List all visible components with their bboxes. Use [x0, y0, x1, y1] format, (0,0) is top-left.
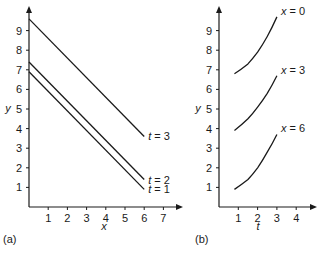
x-tick-label: 1 — [235, 212, 241, 224]
y-tick-label: 3 — [16, 142, 22, 154]
y-tick-label: 2 — [206, 162, 212, 174]
y-tick-label: 3 — [206, 142, 212, 154]
y-tick-label: 7 — [206, 64, 212, 76]
x-axis-arrow-icon — [176, 204, 183, 210]
series-line — [234, 134, 276, 189]
y-axis-label: y — [194, 102, 202, 114]
x-tick-label: 4 — [293, 212, 299, 224]
x-tick-label: 3 — [84, 212, 90, 224]
x-tick-label: 6 — [141, 212, 147, 224]
y-tick-label: 9 — [16, 25, 22, 37]
series-label: x = 3 — [280, 64, 305, 76]
y-axis-label: y — [4, 102, 12, 114]
series-line — [234, 17, 276, 74]
x-axis-label: x — [100, 220, 107, 232]
panel-label: (b) — [195, 233, 208, 245]
y-axis-arrow-icon — [26, 6, 32, 13]
y-tick-label: 6 — [206, 83, 212, 95]
series-line — [29, 62, 144, 180]
x-tick-label: 1 — [45, 212, 51, 224]
y-axis-arrow-icon — [216, 6, 222, 13]
series-line — [29, 72, 144, 190]
chart-panel-b: 1234567891234ty(b)x = 0x = 3x = 6 — [194, 5, 317, 245]
y-tick-label: 6 — [16, 83, 22, 95]
y-tick-label: 5 — [206, 103, 212, 115]
chart-panel-a: 1234567891234567xy(a)t = 3t = 2t = 1 — [3, 6, 183, 245]
y-tick-label: 9 — [206, 25, 212, 37]
series-label: t = 3 — [148, 130, 170, 142]
series-line — [29, 19, 144, 137]
y-tick-label: 4 — [206, 123, 212, 135]
y-tick-label: 1 — [206, 181, 212, 193]
y-tick-label: 4 — [16, 123, 22, 135]
x-tick-label: 5 — [122, 212, 128, 224]
x-tick-label: 2 — [64, 212, 70, 224]
x-tick-label: 7 — [160, 212, 166, 224]
y-tick-label: 8 — [206, 44, 212, 56]
figure: 1234567891234567xy(a)t = 3t = 2t = 11234… — [0, 0, 323, 256]
series-label: t = 1 — [148, 183, 170, 195]
x-axis-arrow-icon — [310, 204, 317, 210]
x-tick-label: 3 — [274, 212, 280, 224]
series-line — [234, 76, 276, 131]
y-tick-label: 5 — [16, 103, 22, 115]
series-label: x = 0 — [280, 5, 305, 17]
y-tick-label: 7 — [16, 64, 22, 76]
y-tick-label: 2 — [16, 162, 22, 174]
series-label: x = 6 — [280, 122, 305, 134]
y-tick-label: 8 — [16, 44, 22, 56]
panel-label: (a) — [3, 233, 16, 245]
y-tick-label: 1 — [16, 181, 22, 193]
